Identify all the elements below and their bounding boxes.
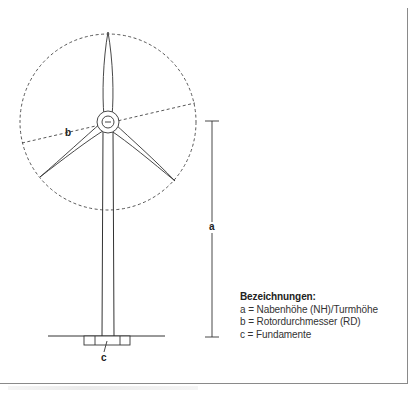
label-a: a [209, 221, 215, 232]
legend-item-c: c = Fundamente [240, 329, 378, 342]
rotor-blades [40, 32, 175, 181]
legend-item-b: b = Rotordurchmesser (RD) [240, 316, 378, 329]
label-b: b [65, 127, 71, 138]
blade-top [103, 32, 113, 116]
blade-right [110, 123, 175, 181]
tower [102, 131, 114, 336]
foundation [84, 336, 130, 345]
blade-left [40, 122, 106, 177]
hub [97, 111, 119, 133]
legend: Bezeichnungen: a = Nabenhöhe (NH)/Turmhö… [240, 291, 378, 341]
legend-title: Bezeichnungen: [240, 291, 378, 304]
legend-item-a: a = Nabenhöhe (NH)/Turmhöhe [240, 304, 378, 317]
label-c: c [101, 352, 107, 363]
faded-caption [8, 386, 198, 390]
